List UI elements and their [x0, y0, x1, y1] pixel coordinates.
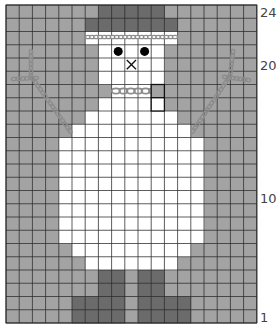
cell-hat_legs [178, 297, 192, 311]
cell-snow [164, 191, 178, 205]
cell-hat_legs [125, 5, 139, 19]
scarf-tail [151, 98, 164, 111]
left-eye-icon [114, 47, 123, 56]
cell-snow [72, 217, 86, 231]
cell-snow [151, 164, 165, 178]
cell-snow [59, 217, 73, 231]
knitting-chart [0, 0, 278, 333]
cell-snow [178, 217, 192, 231]
hat-band-chain [85, 35, 177, 38]
cell-snow [98, 217, 112, 231]
cell-snow [164, 124, 178, 138]
cell-snow [112, 230, 126, 244]
cell-snow [98, 71, 112, 85]
cell-hat_legs [112, 283, 126, 297]
cell-snow [138, 124, 152, 138]
cell-snow [178, 204, 192, 218]
cell-hat_legs [85, 297, 99, 311]
cell-snow [125, 71, 139, 85]
cell-snow [112, 138, 126, 152]
cell-hat_legs [138, 283, 152, 297]
cell-snow [98, 164, 112, 178]
cell-snow [178, 124, 192, 138]
cell-snow [85, 204, 99, 218]
cell-hat_legs [138, 18, 152, 32]
cell-hat_legs [151, 18, 165, 32]
cell-hat_legs [98, 5, 112, 19]
cell-hat_legs [164, 310, 178, 324]
cell-snow [125, 151, 139, 165]
cell-snow [178, 138, 192, 152]
cell-snow [138, 230, 152, 244]
cell-hat_legs [164, 297, 178, 311]
cell-hat_legs [98, 270, 112, 284]
cell-snow [112, 71, 126, 85]
cell-snow [138, 257, 152, 271]
cell-snow [125, 217, 139, 231]
cell-snow [151, 257, 165, 271]
cell-snow [125, 124, 139, 138]
cell-hat_legs [98, 310, 112, 324]
cell-snow [178, 151, 192, 165]
row-label-1: 1 [260, 311, 268, 324]
cell-snow [151, 204, 165, 218]
cell-hat_legs [151, 283, 165, 297]
cell-snow [125, 257, 139, 271]
cell-snow [85, 164, 99, 178]
row-label-24: 24 [260, 6, 277, 19]
cell-snow [178, 164, 192, 178]
cell-snow [151, 151, 165, 165]
row-label-20: 20 [260, 59, 277, 72]
scarf-end [151, 85, 164, 98]
cell-hat_legs [151, 297, 165, 311]
cell-snow [151, 124, 165, 138]
cell-snow [191, 177, 205, 191]
cell-hat_legs [151, 310, 165, 324]
cell-snow [178, 177, 192, 191]
cell-snow [138, 138, 152, 152]
cell-hat_legs [98, 18, 112, 32]
cell-snow [125, 191, 139, 205]
cell-snow [191, 191, 205, 205]
cell-snow [85, 124, 99, 138]
cell-hat_legs [85, 310, 99, 324]
cell-snow [59, 138, 73, 152]
cell-snow [178, 191, 192, 205]
cell-snow [138, 58, 152, 72]
cell-snow [191, 204, 205, 218]
cell-snow [85, 244, 99, 258]
cell-snow [164, 204, 178, 218]
cell-hat_legs [178, 310, 192, 324]
cell-snow [164, 257, 178, 271]
cell-hat_legs [138, 270, 152, 284]
cell-hat_legs [138, 297, 152, 311]
cell-snow [85, 257, 99, 271]
cell-hat_legs [112, 297, 126, 311]
cell-snow [59, 191, 73, 205]
cell-snow [164, 111, 178, 125]
cell-snow [151, 71, 165, 85]
cell-hat_legs [125, 18, 139, 32]
cell-snow [98, 191, 112, 205]
cell-snow [125, 164, 139, 178]
cell-snow [98, 177, 112, 191]
cell-snow [125, 204, 139, 218]
cell-snow [98, 244, 112, 258]
cell-snow [164, 230, 178, 244]
cell-snow [164, 138, 178, 152]
cell-snow [85, 230, 99, 244]
cell-snow [125, 45, 139, 59]
row-label-10: 10 [260, 192, 277, 205]
right-eye-icon [140, 47, 149, 56]
cell-snow [85, 138, 99, 152]
cell-snow [112, 177, 126, 191]
cell-hat_legs [98, 283, 112, 297]
cell-snow [138, 164, 152, 178]
cell-snow [138, 151, 152, 165]
cell-snow [164, 164, 178, 178]
cell-hat_legs [112, 18, 126, 32]
cell-snow [85, 111, 99, 125]
cell-snow [191, 138, 205, 152]
cell-snow [151, 230, 165, 244]
cell-snow [59, 151, 73, 165]
